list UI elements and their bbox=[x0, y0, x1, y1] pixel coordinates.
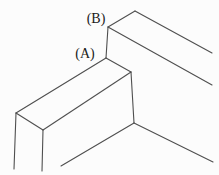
lower-slab-left-top-edge bbox=[16, 113, 43, 130]
floor-edge-left bbox=[61, 123, 134, 166]
lower-slab-back-vertical bbox=[14, 113, 16, 169]
lower-slab-back-top-edge bbox=[16, 58, 106, 113]
floor-edge-right bbox=[134, 123, 213, 162]
lower-slab-right-top-edge bbox=[106, 58, 131, 72]
lower-slab-front-top-edge bbox=[43, 72, 131, 130]
point-label-A: (A) bbox=[75, 46, 95, 62]
upper-slab-back-top-edge bbox=[135, 11, 212, 53]
figure-canvas: (B)(A) bbox=[0, 0, 219, 175]
edge-B-to-A-vertical bbox=[106, 27, 108, 58]
lower-slab-front-vertical bbox=[42, 130, 43, 171]
isometric-step-diagram: (B)(A) bbox=[0, 0, 219, 175]
upper-slab-left-top-edge bbox=[108, 11, 135, 27]
point-label-B: (B) bbox=[87, 11, 106, 27]
lower-slab-right-vertical bbox=[131, 72, 134, 123]
